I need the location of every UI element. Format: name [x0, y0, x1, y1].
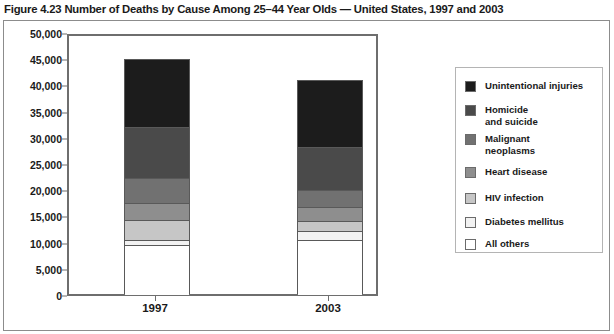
y-axis-tick-label: 35,000	[0, 107, 62, 119]
figure-page: Figure 4.23 Number of Deaths by Cause Am…	[0, 0, 614, 334]
plot-area	[67, 34, 378, 296]
x-axis-tick-mark	[155, 296, 156, 301]
legend-swatch-icon	[465, 193, 476, 204]
y-axis-tick-label: 5,000	[0, 264, 62, 276]
bar-segment	[125, 246, 189, 295]
bar-segment	[125, 179, 189, 205]
legend-item-4[interactable]: HIV infection	[465, 192, 601, 204]
y-axis-tick-label: 30,000	[0, 133, 62, 145]
legend-swatch-icon	[465, 81, 476, 92]
legend-item-2[interactable]: Malignant neoplasms	[465, 133, 601, 156]
bar-segment	[298, 81, 362, 148]
x-axis-tick-mark	[328, 296, 329, 301]
y-axis-tick-label: 15,000	[0, 211, 62, 223]
y-axis-tick-label: 0	[0, 290, 62, 302]
legend-swatch-icon	[465, 105, 476, 116]
legend-item-label: Unintentional injuries	[485, 80, 583, 92]
legend-item-0[interactable]: Unintentional injuries	[465, 80, 601, 92]
legend-item-5[interactable]: Diabetes mellitus	[465, 216, 601, 228]
stacked-bar-1997	[124, 59, 190, 294]
bar-segment	[125, 128, 189, 179]
legend-item-1[interactable]: Homicide and suicide	[465, 104, 601, 127]
y-axis-tick-label: 40,000	[0, 80, 62, 92]
legend-item-label: All others	[485, 238, 529, 250]
stacked-bar-2003	[297, 80, 363, 294]
bar-segment	[298, 208, 362, 222]
bar-segment	[298, 222, 362, 232]
y-axis-tick-label: 50,000	[0, 28, 62, 40]
bar-segment	[298, 241, 362, 295]
legend-item-label: Heart disease	[485, 166, 547, 178]
x-axis-tick-label-2003: 2003	[268, 302, 388, 314]
legend-swatch-icon	[465, 134, 476, 145]
legend-item-label: Malignant neoplasms	[485, 133, 535, 156]
chart-legend: Unintentional injuriesHomicide and suici…	[455, 67, 603, 253]
bar-segment	[298, 148, 362, 190]
bar-segment	[298, 232, 362, 241]
y-axis-tick-label: 25,000	[0, 159, 62, 171]
bar-segment	[125, 60, 189, 128]
bar-segment	[298, 191, 362, 209]
y-axis-tick-label: 20,000	[0, 185, 62, 197]
y-axis-tick-label: 45,000	[0, 54, 62, 66]
legend-item-label: HIV infection	[485, 192, 544, 204]
legend-item-label: Homicide and suicide	[485, 104, 538, 127]
y-axis: 50,00045,00040,00035,00030,00025,00020,0…	[0, 34, 62, 296]
page-title: Figure 4.23 Number of Deaths by Cause Am…	[4, 2, 610, 16]
legend-item-label: Diabetes mellitus	[485, 216, 564, 228]
bar-segment	[125, 221, 189, 241]
legend-swatch-icon	[465, 217, 476, 228]
legend-swatch-icon	[465, 239, 476, 250]
bar-segment	[125, 204, 189, 221]
y-axis-tick-label: 10,000	[0, 238, 62, 250]
legend-item-6[interactable]: All others	[465, 238, 601, 250]
x-axis-tick-label-1997: 1997	[95, 302, 215, 314]
legend-item-3[interactable]: Heart disease	[465, 166, 601, 178]
legend-swatch-icon	[465, 167, 476, 178]
